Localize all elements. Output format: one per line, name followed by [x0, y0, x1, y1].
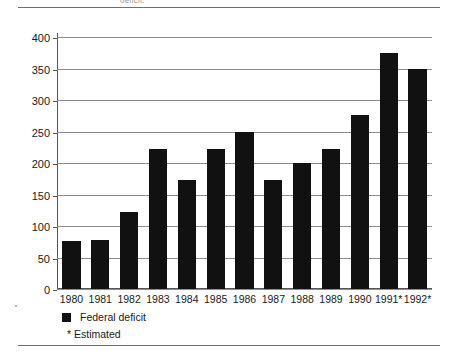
- bottom-divider-rule: [18, 345, 440, 346]
- bar: [91, 240, 109, 289]
- x-axis-tick-label: 1984: [175, 293, 198, 305]
- legend-entry-federal-deficit: Federal deficit: [62, 311, 146, 323]
- x-axis-tick-label: 1988: [291, 293, 314, 305]
- x-axis-tick-label: 1982: [117, 293, 140, 305]
- gridline: 350: [57, 69, 432, 70]
- y-axis-tick-mark: [53, 196, 57, 197]
- y-axis-tick-label: 250: [32, 127, 50, 139]
- bar: [207, 149, 225, 289]
- y-axis-tick-label: 350: [32, 64, 50, 76]
- legend-swatch-icon: [62, 313, 71, 322]
- y-axis-tick-mark: [53, 133, 57, 134]
- x-axis-tick-label: 1990: [348, 293, 371, 305]
- gridline: 300: [57, 100, 432, 101]
- y-axis-line: [57, 33, 58, 289]
- y-axis-tick-label: 400: [32, 32, 50, 44]
- x-axis-tick-label: 1989: [319, 293, 342, 305]
- page-speck: [15, 305, 17, 307]
- bar: [62, 241, 80, 290]
- y-axis-tick-mark: [53, 70, 57, 71]
- bar: [293, 163, 311, 289]
- y-axis-tick-mark: [53, 259, 57, 260]
- x-axis-tick-label: 1983: [146, 293, 169, 305]
- x-axis-tick-label: 1985: [204, 293, 227, 305]
- x-axis-tick-label: 1987: [262, 293, 285, 305]
- x-axis-tick-label: 1981: [89, 293, 112, 305]
- y-axis-tick-mark: [53, 38, 57, 39]
- bar: [351, 115, 369, 290]
- y-axis-tick-mark: [53, 227, 57, 228]
- top-divider-rule: [18, 7, 440, 8]
- bar: [380, 53, 398, 289]
- y-axis-tick-mark: [53, 101, 57, 102]
- cropped-caption-fragment: deficit.: [120, 0, 300, 3]
- x-axis-tick-label: 1991*: [375, 293, 402, 305]
- bar: [178, 180, 196, 289]
- x-axis-tick-label: 1992*: [404, 293, 431, 305]
- chart-plot-area: 050100150200250300350400 198019811982198…: [57, 37, 432, 289]
- bar: [149, 149, 167, 289]
- y-axis-tick-mark: [53, 164, 57, 165]
- bar: [408, 69, 426, 290]
- y-axis-tick-label: 100: [32, 221, 50, 233]
- chart-legend: Federal deficit * Estimated: [62, 311, 146, 340]
- x-axis-tick-label: 1986: [233, 293, 256, 305]
- y-axis-tick-label: 50: [38, 253, 50, 265]
- y-axis-tick-label: 150: [32, 190, 50, 202]
- legend-footnote: * Estimated: [67, 328, 146, 340]
- bar: [235, 132, 253, 290]
- y-axis-tick-mark: [53, 290, 57, 291]
- legend-label: Federal deficit: [80, 311, 146, 323]
- bar: [264, 180, 282, 289]
- bar: [322, 149, 340, 289]
- gridline: 400: [57, 37, 432, 38]
- y-axis-tick-label: 0: [44, 284, 50, 296]
- bar: [120, 212, 138, 289]
- y-axis-tick-label: 300: [32, 95, 50, 107]
- x-axis-tick-label: 1980: [60, 293, 83, 305]
- gridline: 0: [57, 289, 432, 290]
- y-axis-tick-label: 200: [32, 158, 50, 170]
